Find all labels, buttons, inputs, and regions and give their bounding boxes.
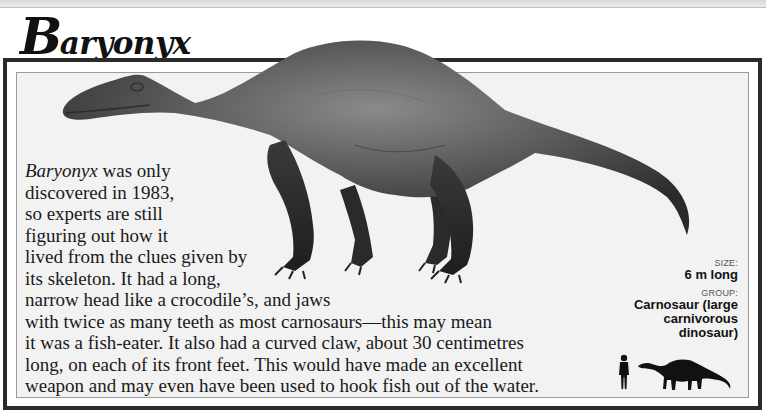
- human-silhouette-icon: [619, 355, 629, 389]
- description-line: long, on each of its front feet. This wo…: [25, 354, 625, 376]
- description-line: lived from the clues given by: [25, 246, 625, 268]
- description-line: Baryonyx was only: [25, 160, 625, 182]
- size-value: 6 m long: [608, 268, 738, 282]
- scale-comparison: [614, 353, 744, 393]
- size-fact: SIZE: 6 m long: [608, 258, 738, 282]
- group-value-line: dinosaur): [608, 326, 738, 340]
- description-line: its skeleton. It had a long,: [25, 268, 625, 290]
- description-line: discovered in 1983,: [25, 182, 625, 204]
- description-line: narrow head like a crocodile’s, and jaws: [25, 289, 625, 311]
- description-line: with twice as many teeth as most carnosa…: [25, 311, 625, 333]
- fact-box: SIZE: 6 m long GROUP: Carnosaur (large c…: [608, 258, 738, 346]
- dinosaur-silhouette-icon: [638, 360, 730, 390]
- description-line: so experts are still: [25, 203, 625, 225]
- description-line: figuring out how it: [25, 225, 625, 247]
- description-line: weapon and may even have been used to ho…: [25, 375, 625, 397]
- group-value-line: Carnosaur (large: [608, 298, 738, 312]
- group-fact: GROUP: Carnosaur (large carnivorous dino…: [608, 288, 738, 340]
- group-value-line: carnivorous: [608, 312, 738, 326]
- description-text: Baryonyx was only discovered in 1983, so…: [25, 160, 625, 397]
- page-top-rule: [0, 0, 766, 8]
- description-line: it was a fish-eater. It also had a curve…: [25, 332, 625, 354]
- species-name: Baryonyx: [25, 160, 98, 181]
